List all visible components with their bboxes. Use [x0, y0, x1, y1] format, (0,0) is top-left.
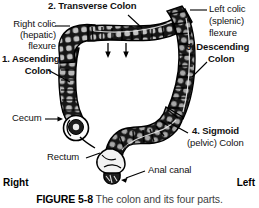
- label-sigmoid-pelvic: (pelvic): [187, 137, 219, 148]
- orientation-right: Right: [3, 177, 29, 188]
- label-descending-colon-line1: 3. Descending: [186, 42, 249, 53]
- figure-number: FIGURE 5-8: [36, 193, 93, 205]
- arrow-down-icon-2: [123, 43, 129, 58]
- label-anal-canal: Anal canal: [148, 165, 191, 176]
- anal-canal-shape: [104, 173, 120, 184]
- label-transverse-colon: 2. Transverse Colon: [48, 1, 136, 12]
- leader-anal-canal: [126, 171, 145, 178]
- figure-caption-text: The colon and its four parts.: [96, 193, 223, 205]
- label-left-colic-line2: (splenic): [209, 16, 244, 27]
- figure-caption: FIGURE 5-8 The colon and its four parts.: [0, 193, 259, 205]
- rectum-shape: [97, 149, 125, 174]
- label-right-colic-line2: (hepatic): [0, 30, 56, 41]
- label-ascending-colon-line2: Colon: [2, 66, 74, 77]
- cecum-shape: [64, 116, 96, 149]
- label-cecum: Cecum: [12, 113, 42, 124]
- label-ascending-colon-line1: 1. Ascending: [2, 54, 60, 65]
- label-rectum: Rectum: [47, 152, 79, 163]
- appendix-shape: [80, 137, 95, 148]
- label-descending-colon-line2: Colon: [208, 54, 234, 65]
- label-right-colic-line1: Right colic: [0, 19, 56, 30]
- orientation-left: Left: [237, 177, 255, 188]
- arrow-down-icon-1: [105, 43, 111, 58]
- label-left-colic-line3: flexure: [209, 28, 237, 39]
- label-sigmoid-colon-word: Colon: [219, 137, 243, 148]
- label-sigmoid-colon-line2: (pelvic) Colon: [187, 138, 244, 149]
- label-left-colic-line1: Left colic: [209, 4, 246, 15]
- label-sigmoid-colon-line1: 4. Sigmoid: [192, 126, 239, 137]
- label-right-colic-line3: flexure: [0, 41, 56, 52]
